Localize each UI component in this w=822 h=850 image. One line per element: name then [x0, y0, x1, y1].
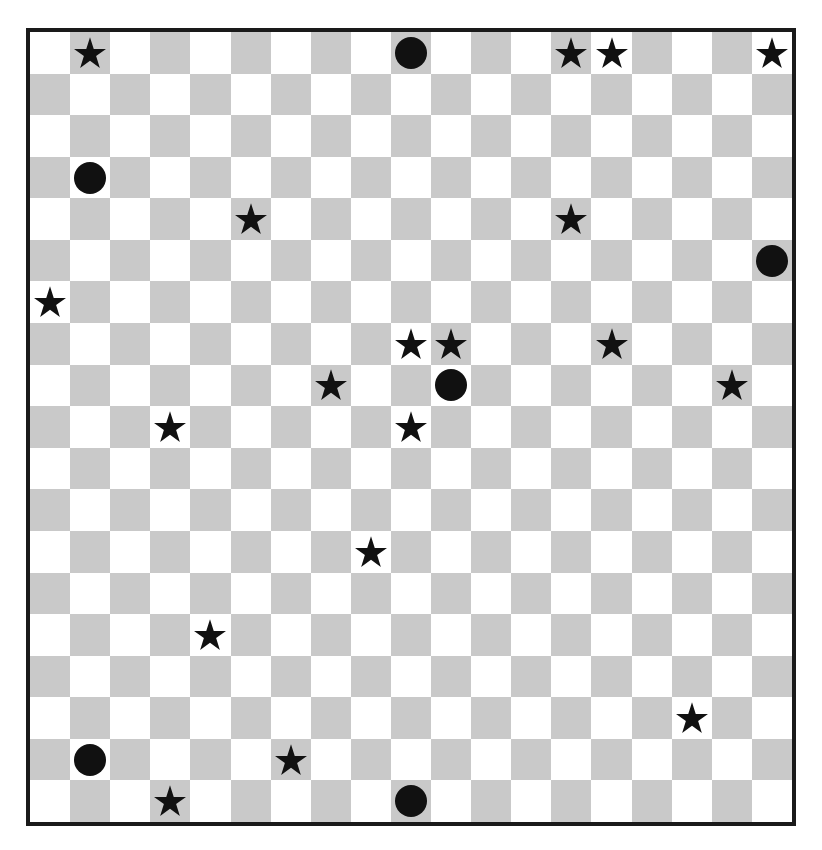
board-cell-r3-c18[interactable] — [752, 157, 792, 199]
board-cell-r1-c17[interactable] — [712, 74, 752, 116]
board-cell-r12-c4[interactable] — [190, 531, 230, 573]
board-cell-r1-c8[interactable] — [351, 74, 391, 116]
star-piece-icon[interactable] — [675, 701, 709, 735]
board-cell-r10-c9[interactable] — [391, 448, 431, 490]
star-piece-icon[interactable] — [394, 410, 428, 444]
board-cell-r5-c10[interactable] — [431, 240, 471, 282]
board-cell-r12-c17[interactable] — [712, 531, 752, 573]
board-cell-r3-c0[interactable] — [30, 157, 70, 199]
board-cell-r1-c13[interactable] — [551, 74, 591, 116]
board-cell-r15-c6[interactable] — [271, 656, 311, 698]
board-cell-r15-c7[interactable] — [311, 656, 351, 698]
board-cell-r4-c2[interactable] — [110, 198, 150, 240]
board-cell-r8-c11[interactable] — [471, 365, 511, 407]
board-cell-r17-c6[interactable] — [271, 739, 311, 781]
board-cell-r8-c7[interactable] — [311, 365, 351, 407]
board-cell-r18-c3[interactable] — [150, 780, 190, 822]
board-cell-r8-c0[interactable] — [30, 365, 70, 407]
board-cell-r17-c9[interactable] — [391, 739, 431, 781]
board-cell-r3-c8[interactable] — [351, 157, 391, 199]
board-cell-r8-c4[interactable] — [190, 365, 230, 407]
board-cell-r14-c11[interactable] — [471, 614, 511, 656]
star-piece-icon[interactable] — [755, 36, 789, 70]
circle-piece-icon[interactable] — [395, 785, 427, 817]
board-cell-r8-c14[interactable] — [591, 365, 631, 407]
board-cell-r12-c6[interactable] — [271, 531, 311, 573]
board-cell-r13-c0[interactable] — [30, 573, 70, 615]
board-cell-r15-c11[interactable] — [471, 656, 511, 698]
board-cell-r0-c17[interactable] — [712, 32, 752, 74]
board-cell-r7-c2[interactable] — [110, 323, 150, 365]
board-cell-r8-c12[interactable] — [511, 365, 551, 407]
board-cell-r17-c14[interactable] — [591, 739, 631, 781]
board-cell-r13-c13[interactable] — [551, 573, 591, 615]
board-cell-r12-c2[interactable] — [110, 531, 150, 573]
board-cell-r4-c11[interactable] — [471, 198, 511, 240]
board-cell-r5-c11[interactable] — [471, 240, 511, 282]
board-cell-r18-c16[interactable] — [672, 780, 712, 822]
board-cell-r12-c16[interactable] — [672, 531, 712, 573]
board-cell-r3-c11[interactable] — [471, 157, 511, 199]
board-cell-r7-c14[interactable] — [591, 323, 631, 365]
board-cell-r12-c10[interactable] — [431, 531, 471, 573]
board-cell-r17-c8[interactable] — [351, 739, 391, 781]
board-cell-r14-c17[interactable] — [712, 614, 752, 656]
board-cell-r8-c5[interactable] — [231, 365, 271, 407]
board-cell-r15-c2[interactable] — [110, 656, 150, 698]
board-cell-r6-c9[interactable] — [391, 281, 431, 323]
board-cell-r9-c1[interactable] — [70, 406, 110, 448]
board-cell-r13-c18[interactable] — [752, 573, 792, 615]
board-cell-r7-c1[interactable] — [70, 323, 110, 365]
board-cell-r9-c15[interactable] — [632, 406, 672, 448]
board-cell-r11-c14[interactable] — [591, 489, 631, 531]
board-cell-r9-c2[interactable] — [110, 406, 150, 448]
board-cell-r3-c13[interactable] — [551, 157, 591, 199]
board-cell-r14-c8[interactable] — [351, 614, 391, 656]
board-cell-r18-c14[interactable] — [591, 780, 631, 822]
board-cell-r1-c0[interactable] — [30, 74, 70, 116]
board-cell-r2-c0[interactable] — [30, 115, 70, 157]
board-cell-r1-c1[interactable] — [70, 74, 110, 116]
board-cell-r15-c15[interactable] — [632, 656, 672, 698]
board-cell-r15-c10[interactable] — [431, 656, 471, 698]
board-cell-r10-c1[interactable] — [70, 448, 110, 490]
star-piece-icon[interactable] — [554, 36, 588, 70]
board-cell-r17-c18[interactable] — [752, 739, 792, 781]
board-cell-r16-c9[interactable] — [391, 697, 431, 739]
board-cell-r9-c10[interactable] — [431, 406, 471, 448]
board-cell-r2-c6[interactable] — [271, 115, 311, 157]
board-cell-r0-c1[interactable] — [70, 32, 110, 74]
board-cell-r11-c13[interactable] — [551, 489, 591, 531]
board-cell-r11-c15[interactable] — [632, 489, 672, 531]
board-cell-r2-c15[interactable] — [632, 115, 672, 157]
board-cell-r17-c1[interactable] — [70, 739, 110, 781]
circle-piece-icon[interactable] — [74, 744, 106, 776]
board-cell-r16-c16[interactable] — [672, 697, 712, 739]
star-piece-icon[interactable] — [153, 410, 187, 444]
board-cell-r3-c6[interactable] — [271, 157, 311, 199]
board-cell-r6-c16[interactable] — [672, 281, 712, 323]
board-cell-r5-c6[interactable] — [271, 240, 311, 282]
board-cell-r9-c6[interactable] — [271, 406, 311, 448]
board-cell-r12-c0[interactable] — [30, 531, 70, 573]
board-cell-r0-c2[interactable] — [110, 32, 150, 74]
board-cell-r12-c1[interactable] — [70, 531, 110, 573]
board-cell-r12-c3[interactable] — [150, 531, 190, 573]
board-cell-r11-c16[interactable] — [672, 489, 712, 531]
board-cell-r3-c14[interactable] — [591, 157, 631, 199]
board-cell-r8-c8[interactable] — [351, 365, 391, 407]
board-cell-r17-c7[interactable] — [311, 739, 351, 781]
board-cell-r4-c12[interactable] — [511, 198, 551, 240]
board-cell-r5-c1[interactable] — [70, 240, 110, 282]
board-cell-r3-c7[interactable] — [311, 157, 351, 199]
board-cell-r3-c15[interactable] — [632, 157, 672, 199]
board-cell-r14-c6[interactable] — [271, 614, 311, 656]
board-cell-r11-c3[interactable] — [150, 489, 190, 531]
board-cell-r7-c8[interactable] — [351, 323, 391, 365]
board-cell-r14-c3[interactable] — [150, 614, 190, 656]
board-cell-r0-c6[interactable] — [271, 32, 311, 74]
board-cell-r4-c8[interactable] — [351, 198, 391, 240]
board-cell-r15-c9[interactable] — [391, 656, 431, 698]
board-cell-r17-c2[interactable] — [110, 739, 150, 781]
board-cell-r9-c11[interactable] — [471, 406, 511, 448]
